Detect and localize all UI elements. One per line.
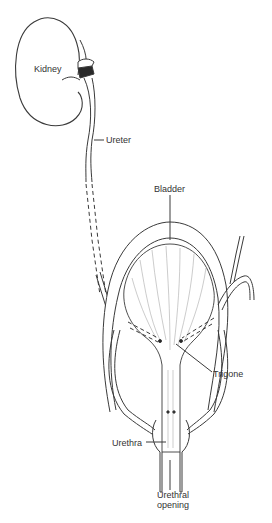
- bladder-label: Bladder: [154, 184, 185, 194]
- urethra-shape: [153, 420, 190, 492]
- urethral-opening-label-line1: Urethral: [155, 490, 191, 500]
- ureter-label: Ureter: [106, 135, 131, 145]
- urethral-opening-label-line2: opening: [155, 500, 191, 510]
- bladder-shape: [103, 222, 228, 452]
- kidney-label: Kidney: [34, 64, 62, 74]
- urethral-opening-label: Urethral opening: [155, 490, 191, 510]
- urethra-label: Urethra: [112, 438, 142, 448]
- trigone-label: Trigone: [213, 369, 243, 379]
